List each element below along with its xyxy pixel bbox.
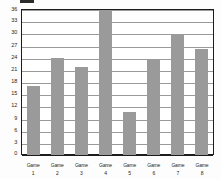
x-tick-label: Game2 — [45, 162, 69, 177]
y-tick-label: 24 — [11, 55, 17, 61]
y-tick-label: 15 — [11, 91, 17, 97]
bar — [27, 86, 40, 155]
bars-layer — [21, 9, 214, 155]
gridline-0 — [22, 155, 213, 156]
x-tick-label-line2: 3 — [69, 170, 93, 178]
bar — [123, 112, 136, 155]
x-tick-label: Game7 — [166, 162, 190, 177]
x-tick-label-line2: 5 — [118, 170, 142, 178]
x-tick-label-line1: Game — [118, 162, 142, 170]
x-axis-category-labels: Game1Game2Game3Game4Game5Game6Game7Game8 — [21, 157, 214, 179]
x-tick-label-line1: Game — [166, 162, 190, 170]
y-tick-label: 30 — [11, 31, 17, 37]
y-tick-label: 0 — [14, 151, 17, 157]
bar — [147, 60, 160, 155]
x-tick-label: Game4 — [93, 162, 117, 177]
x-tick-label: Game8 — [190, 162, 214, 177]
y-tick-label: 36 — [11, 7, 17, 13]
y-tick-label: 12 — [11, 104, 17, 110]
x-tick-label-line1: Game — [93, 162, 117, 170]
x-tick-label-line1: Game — [142, 162, 166, 170]
y-axis-tick-labels: 0369121518212427303336 — [0, 9, 19, 155]
x-tick-label: Game1 — [21, 162, 45, 177]
y-tick-label: 6 — [14, 128, 17, 134]
x-tick-label-line2: 4 — [93, 170, 117, 178]
x-tick-label-line2: 6 — [142, 170, 166, 178]
y-tick-label: 27 — [11, 43, 17, 49]
bar-chart: 0369121518212427303336 Game1Game2Game3Ga… — [0, 0, 221, 179]
clipped-top-marker — [20, 0, 34, 3]
bar — [195, 49, 208, 155]
y-tick-label: 21 — [11, 67, 17, 73]
x-tick-label-line2: 8 — [190, 170, 214, 178]
x-tick-label-line1: Game — [45, 162, 69, 170]
x-tick-label-line1: Game — [69, 162, 93, 170]
x-tick-label-line2: 1 — [21, 170, 45, 178]
x-tick-label-line2: 2 — [45, 170, 69, 178]
x-tick-label-line1: Game — [21, 162, 45, 170]
y-tick-label: 18 — [11, 79, 17, 85]
x-tick-label: Game5 — [118, 162, 142, 177]
x-tick-label: Game3 — [69, 162, 93, 177]
x-tick-label-line1: Game — [190, 162, 214, 170]
bar — [99, 10, 112, 155]
x-tick-label-line2: 7 — [166, 170, 190, 178]
bar — [75, 67, 88, 155]
y-tick-label: 3 — [14, 140, 17, 146]
x-tick-label: Game6 — [142, 162, 166, 177]
y-tick-label: 33 — [11, 18, 17, 24]
bar — [171, 35, 184, 155]
bar — [51, 58, 64, 155]
y-tick-label: 9 — [14, 116, 17, 122]
